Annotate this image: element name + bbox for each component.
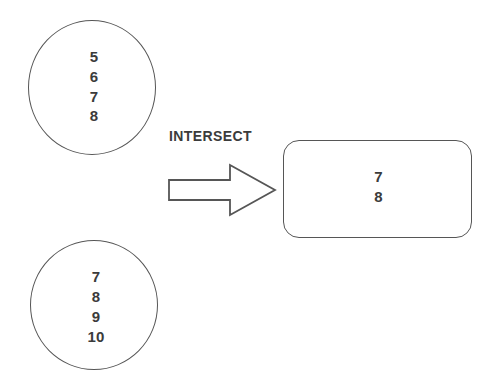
result-member-list: 7 8 xyxy=(374,167,383,207)
operation-label: INTERSECT xyxy=(169,128,252,144)
set-member: 7 xyxy=(92,267,101,287)
operand-bottom-member-list: 7 8 9 10 xyxy=(87,267,104,346)
set-member: 7 xyxy=(374,167,383,187)
intersection-diagram: 5 6 7 8 7 8 9 10 INTERSECT 7 8 xyxy=(0,0,496,387)
set-member: 5 xyxy=(90,47,99,67)
block-arrow-right-icon xyxy=(166,161,278,219)
set-member: 8 xyxy=(374,187,383,207)
operand-set-top: 5 6 7 8 xyxy=(28,20,156,155)
operand-top-member-list: 5 6 7 8 xyxy=(90,47,99,126)
set-member: 9 xyxy=(92,307,101,327)
set-member: 10 xyxy=(87,327,104,347)
set-member: 7 xyxy=(90,87,99,107)
operand-set-bottom: 7 8 9 10 xyxy=(30,240,158,370)
set-member: 8 xyxy=(92,287,101,307)
set-member: 6 xyxy=(90,67,99,87)
set-member: 8 xyxy=(90,106,99,126)
result-set: 7 8 xyxy=(283,140,472,238)
